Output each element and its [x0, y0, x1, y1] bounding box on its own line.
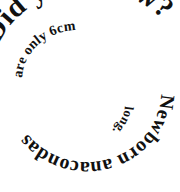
svg-text:Newborn anacondas: Newborn anacondas — [14, 93, 179, 180]
spiral-segment-inner: are only 6cm — [10, 18, 77, 79]
spiral-segment-core: long. — [110, 106, 137, 140]
spiral-segment-middle: Newborn anacondas — [14, 93, 179, 180]
spiral-segment-inner-label: are only 6cm — [10, 18, 77, 79]
svg-text:long.: long. — [110, 106, 137, 140]
spiral-text-graphic: Did you know? Newborn anacondas are only… — [0, 0, 180, 192]
spiral-text-canvas: Did you know? Newborn anacondas are only… — [0, 0, 180, 192]
spiral-segment-core-label: long. — [110, 106, 137, 140]
spiral-segment-middle-label: Newborn anacondas — [14, 93, 179, 180]
svg-text:are only 6cm: are only 6cm — [10, 18, 77, 79]
